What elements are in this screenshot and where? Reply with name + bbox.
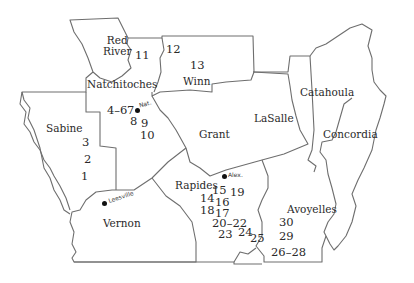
parish-label-sabine: Sabine: [46, 123, 83, 134]
town-label-alexandria: Alex.: [228, 172, 243, 178]
parish-label-natchitoches: Natchitoches: [87, 79, 157, 90]
site-number: 1: [81, 171, 88, 183]
town-dot-leesville: [102, 201, 107, 206]
site-number: 19: [230, 187, 245, 199]
town-dot-natchitoches: [135, 108, 140, 113]
avoyelles-rapides-boundary: [234, 248, 256, 262]
site-number: 2: [84, 154, 91, 166]
site-number: 25: [250, 233, 265, 245]
south-border: [74, 262, 262, 264]
town-dot-alexandria: [222, 174, 227, 179]
parish-map: [0, 0, 414, 283]
red-river-line1: Red: [103, 35, 131, 46]
site-number: 11: [135, 50, 150, 62]
lasalle-boundary: [253, 24, 372, 72]
site-number: 10: [140, 130, 155, 142]
site-number: 4–6: [107, 105, 127, 117]
parish-label-red-river: Red River: [103, 35, 131, 56]
site-number: 3: [82, 137, 89, 149]
site-number: 30: [279, 217, 294, 229]
red-river-line2: River: [103, 46, 131, 57]
parish-label-catahoula: Catahoula: [300, 87, 354, 98]
sabine-west-river: [20, 92, 70, 210]
site-number: 29: [279, 231, 294, 243]
site-number: 13: [190, 60, 205, 72]
site-number: 12: [166, 44, 181, 56]
parish-label-avoyelles: Avoyelles: [287, 204, 337, 215]
site-number: 23: [218, 229, 233, 241]
catahoula-west-boundary: [308, 56, 316, 172]
parish-label-grant: Grant: [199, 129, 230, 140]
parish-label-lasalle: LaSalle: [254, 113, 294, 124]
grant-boundary: [152, 72, 308, 176]
parish-label-winn: Winn: [183, 76, 211, 87]
parish-label-concordia: Concordia: [323, 129, 378, 140]
site-number: 26–28: [271, 247, 306, 259]
site-number: 18: [200, 205, 215, 217]
site-number: 8: [130, 116, 137, 128]
parish-label-vernon: Vernon: [103, 218, 141, 229]
